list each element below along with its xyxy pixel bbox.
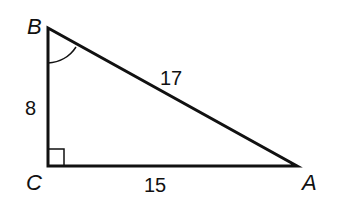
side-label-bc: 8 [25,97,36,119]
triangle-diagram: B C A 17 15 8 [0,0,337,203]
vertex-label-c: C [26,170,42,195]
angle-b-arc [48,47,76,63]
right-angle-marker [48,149,64,166]
vertex-label-b: B [27,14,42,39]
triangle-abc [48,28,297,166]
side-label-ca: 15 [144,174,166,196]
side-label-ab: 17 [160,67,182,89]
vertex-label-a: A [300,170,317,195]
